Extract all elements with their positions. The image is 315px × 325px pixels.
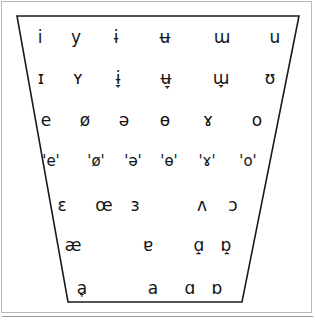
vowel-symbol: ɪ — [38, 70, 44, 87]
vowel-symbol: ø — [80, 112, 90, 129]
ipa-vowel-chart-figure: iyɨʉɯu ɪʏɨ̞ʉ̞ɯ̞ʊ eøəɵɤo 'e''ø''ə''ɵ''ɤ''… — [0, 0, 315, 325]
vowel-symbol: æ — [65, 237, 82, 254]
vowel-symbol: 'ø' — [87, 154, 104, 169]
vowel-symbol: e — [41, 112, 51, 129]
vowel-symbol: ɑ̝ — [194, 237, 205, 254]
vowel-symbol: œ — [95, 197, 112, 214]
vowel-symbol: ɛ — [57, 197, 66, 214]
vowel-symbol: ʊ — [265, 70, 276, 87]
vowel-symbol: 'e' — [42, 154, 59, 169]
vowel-symbol: ɨ — [114, 29, 119, 46]
vowel-symbol: u — [270, 29, 281, 46]
vowel-symbol: ɐ — [143, 237, 153, 254]
vowel-symbol: ə — [119, 112, 129, 129]
vowel-symbol: a — [148, 280, 158, 297]
vowel-symbol: ʏ — [73, 70, 83, 87]
vowel-symbol: ʉ — [160, 29, 171, 46]
vowel-symbol: ɵ — [160, 112, 170, 129]
vowel-symbol: ɑ — [185, 280, 196, 297]
vowel-symbol: i — [38, 29, 43, 46]
vowel-symbol: o — [252, 112, 262, 129]
vowel-symbol: a̟ — [77, 280, 87, 297]
vowel-row-open: a̟aɑɒ — [0, 0, 315, 30]
vowel-symbol: 'o' — [239, 154, 256, 169]
vowel-symbol: ɒ̝ — [221, 237, 232, 254]
vowel-symbol: ɯ̞ — [213, 70, 230, 87]
vowel-symbol: ɤ — [203, 112, 213, 129]
vowel-symbol: ɨ̞ — [116, 70, 121, 87]
vowel-symbol: 'ə' — [124, 154, 141, 169]
vowel-symbol: y — [71, 29, 81, 46]
vowel-symbol: ʉ̞ — [161, 70, 172, 87]
vowel-symbol: 'ɤ' — [198, 154, 215, 169]
vowel-symbol: 'ɵ' — [160, 154, 177, 169]
vowel-symbol: ɜ — [130, 197, 139, 214]
vowel-symbol: ɯ — [214, 29, 231, 46]
vowel-symbol: ʌ — [197, 197, 207, 214]
vowel-symbol: ɔ — [228, 197, 237, 214]
vowel-symbol: ɒ — [212, 280, 223, 297]
